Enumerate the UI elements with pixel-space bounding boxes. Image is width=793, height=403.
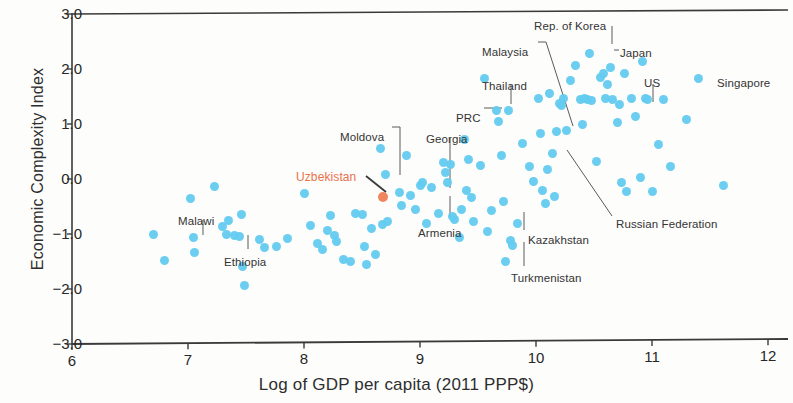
data-point (622, 187, 631, 196)
data-point (210, 182, 219, 191)
data-point (643, 95, 652, 104)
data-point (427, 183, 436, 192)
data-point (719, 181, 728, 190)
annotation-label-russian-federation: Russian Federation (616, 218, 718, 230)
data-point (272, 242, 281, 251)
data-point (559, 94, 568, 103)
annotation-label-armenia: Armenia (418, 227, 462, 239)
data-point (376, 144, 385, 153)
data-point (497, 151, 506, 160)
annotation-label-kazakhstan: Kazakhstan (528, 234, 589, 246)
annotation-label-us: US (644, 77, 660, 89)
scatter-chart-figure: Economic Complexity Index Log of GDP per… (0, 0, 793, 403)
data-point (260, 243, 269, 252)
data-point (508, 241, 517, 250)
y-tick-label: −3.0 (36, 335, 82, 352)
data-point (235, 232, 244, 241)
data-point (648, 187, 657, 196)
x-tick-label: 9 (408, 350, 432, 367)
annotation-label-malaysia: Malaysia (482, 46, 528, 58)
data-point (467, 193, 476, 202)
data-point-highlighted (378, 192, 388, 202)
y-tick-label: −1.0 (36, 225, 82, 242)
data-point (469, 217, 478, 226)
data-point (443, 178, 452, 187)
data-point (306, 221, 315, 230)
x-tick-label: 7 (176, 351, 200, 368)
data-point (492, 106, 501, 115)
data-point (224, 216, 233, 225)
data-point (613, 118, 622, 127)
data-point (487, 206, 496, 215)
data-point (513, 219, 522, 228)
y-tick-label: 0.0 (36, 170, 82, 187)
data-point (283, 234, 292, 243)
y-axis-title: Economic Complexity Index (29, 39, 47, 299)
data-point (457, 205, 466, 214)
annotation-label-uzbekistan: Uzbekistan (296, 170, 356, 184)
data-point (494, 117, 503, 126)
annotation-label-moldova: Moldova (340, 131, 384, 143)
data-point (538, 186, 547, 195)
x-tick-label: 12 (756, 347, 780, 364)
data-point (620, 69, 629, 78)
x-tick-label: 10 (524, 349, 548, 366)
data-point (326, 211, 335, 220)
data-point (578, 120, 587, 129)
data-point (592, 157, 601, 166)
data-point (441, 168, 450, 177)
data-point (617, 178, 626, 187)
data-point (332, 237, 341, 246)
data-point (545, 89, 554, 98)
annotation-label-prc: PRC (456, 112, 481, 124)
data-point (603, 80, 612, 89)
y-tick-label: −2.0 (36, 280, 82, 297)
data-point (434, 209, 443, 218)
data-point (499, 197, 508, 206)
data-point (464, 155, 473, 164)
data-point (552, 127, 561, 136)
data-point (381, 170, 390, 179)
data-point (406, 191, 415, 200)
data-point (362, 260, 371, 269)
data-point (659, 95, 668, 104)
data-point (518, 139, 527, 148)
annotation-label-ethiopia: Ethiopia (224, 256, 266, 268)
data-point (240, 281, 249, 290)
annotation-label-japan: Japan (620, 47, 652, 59)
annotation-label-singapore: Singapore (717, 77, 770, 89)
data-point (541, 199, 550, 208)
data-point (360, 242, 369, 251)
data-point (300, 189, 309, 198)
data-point (534, 94, 543, 103)
annotation-label-malawi: Malawi (178, 215, 214, 227)
x-tick-label: 11 (640, 348, 664, 365)
data-point (562, 126, 571, 135)
data-point (501, 257, 510, 266)
data-point (383, 217, 392, 226)
data-point (529, 177, 538, 186)
data-point (550, 192, 559, 201)
data-point (631, 112, 640, 121)
data-point (615, 100, 624, 109)
data-point (694, 74, 703, 83)
data-point (566, 76, 575, 85)
data-point (358, 210, 367, 219)
data-point (418, 178, 427, 187)
data-point (483, 227, 492, 236)
data-point (395, 188, 404, 197)
data-point (402, 151, 411, 160)
annotation-label-turkmenistan: Turkmenistan (511, 272, 581, 284)
data-point (190, 248, 199, 257)
data-point (504, 106, 513, 115)
y-tick-label: 1.0 (36, 115, 82, 132)
data-point (476, 161, 485, 170)
data-point (606, 63, 615, 72)
annotation-label-georgia: Georgia (426, 133, 468, 145)
data-point (543, 165, 552, 174)
data-point (237, 210, 246, 219)
data-point (654, 140, 663, 149)
data-point (450, 215, 459, 224)
annotation-label-rep-of-korea: Rep. of Korea (534, 20, 606, 32)
data-point (571, 61, 580, 70)
